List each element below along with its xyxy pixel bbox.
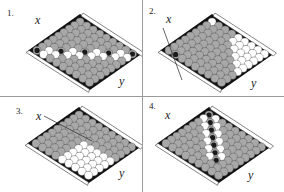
x-axis-label: x	[36, 109, 41, 124]
y-axis-label: y	[119, 166, 124, 181]
panel-number: 2.	[149, 6, 156, 16]
x-axis-label: x	[166, 12, 171, 27]
panel-number: 3.	[16, 106, 23, 116]
panel-2: 2. x y	[142, 0, 284, 96]
panel-1: 1. x y	[0, 0, 142, 96]
x-axis-label: x	[165, 108, 170, 123]
x-axis-label: x	[35, 13, 40, 28]
panel-number: 4.	[149, 101, 156, 111]
hex-board-4	[142, 96, 284, 192]
panel-3: 3. x y	[0, 96, 142, 192]
y-axis-label: y	[251, 76, 256, 91]
y-axis-label: y	[119, 74, 124, 89]
panel-number: 1.	[7, 8, 14, 18]
y-axis-label: y	[248, 168, 253, 183]
hex-board-2	[142, 0, 284, 96]
panel-4: 4. x y	[142, 96, 284, 192]
